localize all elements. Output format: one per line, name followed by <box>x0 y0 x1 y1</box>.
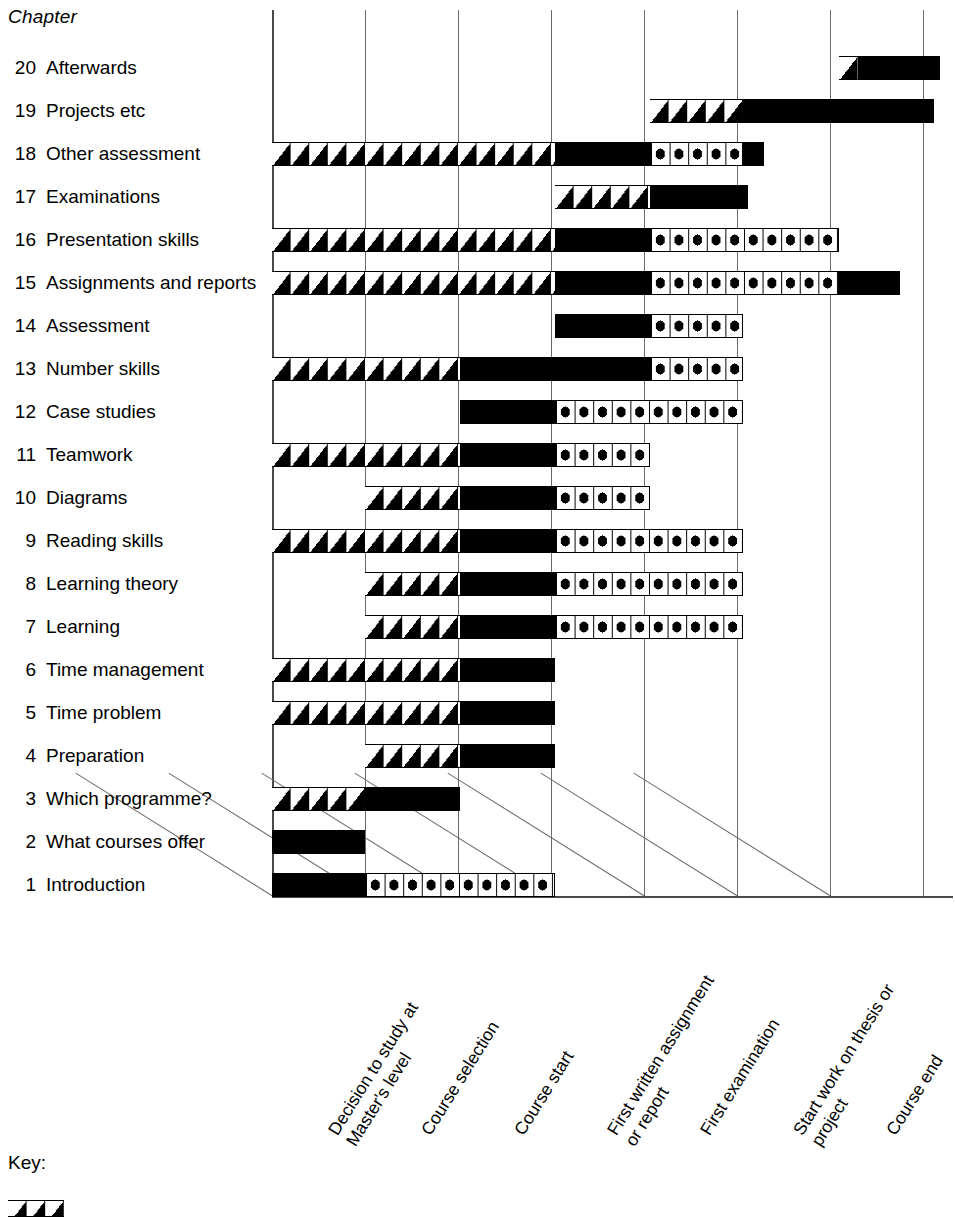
chapter-number: 17 <box>0 186 36 208</box>
chapter-title: Preparation <box>46 745 144 767</box>
chapter-title: Diagrams <box>46 487 127 509</box>
chapter-title: Assignments and reports <box>46 272 256 294</box>
gantt-segment-solid <box>460 744 555 768</box>
chapter-title: Time management <box>46 659 204 681</box>
chapter-number: 13 <box>0 358 36 380</box>
gantt-bar-row-3[interactable] <box>272 787 955 811</box>
gantt-segment-hatch <box>272 142 555 166</box>
gantt-segment-solid <box>460 486 555 510</box>
gantt-segment-hatch <box>365 744 460 768</box>
chapter-number: 8 <box>0 573 36 595</box>
chapter-number: 10 <box>0 487 36 509</box>
chapter-title: Afterwards <box>46 57 137 79</box>
gantt-bar-row-17[interactable] <box>272 185 955 209</box>
chapter-title: Presentation skills <box>46 229 199 251</box>
gantt-segment-solid <box>460 357 650 381</box>
gantt-segment-hatch <box>272 787 365 811</box>
gantt-segment-dot <box>555 443 650 467</box>
chapter-number: 3 <box>0 788 36 810</box>
chapter-row-label-3[interactable]: 3Which programme? <box>0 787 266 811</box>
gantt-bar-row-18[interactable] <box>272 142 955 166</box>
gantt-bar-row-14[interactable] <box>272 314 955 338</box>
gantt-segment-hatch <box>839 56 858 80</box>
chapter-row-label-17[interactable]: 17Examinations <box>0 185 266 209</box>
plot-area: Decision to study at Master's levelCours… <box>0 0 955 1217</box>
gantt-segment-hatch <box>272 529 460 553</box>
chapter-number: 16 <box>0 229 36 251</box>
gantt-bar-row-13[interactable] <box>272 357 955 381</box>
gantt-bar-row-9[interactable] <box>272 529 955 553</box>
chapter-row-label-7[interactable]: 7Learning <box>0 615 266 639</box>
chapter-row-label-19[interactable]: 19Projects etc <box>0 99 266 123</box>
chapter-row-label-16[interactable]: 16Presentation skills <box>0 228 266 252</box>
chapter-number: 7 <box>0 616 36 638</box>
gantt-segment-solid <box>460 443 555 467</box>
chapter-title: Assessment <box>46 315 149 337</box>
gantt-segment-hatch <box>650 99 743 123</box>
chapter-row-label-11[interactable]: 11Teamwork <box>0 443 266 467</box>
gantt-segment-solid <box>555 314 650 338</box>
chapter-number: 11 <box>0 444 36 466</box>
chapter-title: Reading skills <box>46 530 163 552</box>
chapter-title: Number skills <box>46 358 160 380</box>
chapter-number: 18 <box>0 143 36 165</box>
gantt-segment-hatch <box>555 185 650 209</box>
gantt-bar-row-15[interactable] <box>272 271 955 295</box>
chapter-row-label-18[interactable]: 18Other assessment <box>0 142 266 166</box>
gantt-segment-dot <box>365 873 555 897</box>
gantt-chart: Chapter Decision to study at Master's le… <box>0 0 955 1217</box>
gantt-bar-row-1[interactable] <box>272 873 955 897</box>
chapter-title: Examinations <box>46 186 160 208</box>
gantt-bar-row-8[interactable] <box>272 572 955 596</box>
chapter-title: Learning <box>46 616 120 638</box>
chapter-row-label-8[interactable]: 8Learning theory <box>0 572 266 596</box>
chapter-row-label-13[interactable]: 13Number skills <box>0 357 266 381</box>
chapter-row-label-15[interactable]: 15Assignments and reports <box>0 271 266 295</box>
gantt-segment-solid <box>555 142 650 166</box>
gantt-bar-row-19[interactable] <box>272 99 955 123</box>
chapter-number: 14 <box>0 315 36 337</box>
gantt-segment-solid <box>460 615 555 639</box>
chapter-title: Teamwork <box>46 444 133 466</box>
gantt-segment-dot <box>650 271 840 295</box>
chapter-row-label-14[interactable]: 14Assessment <box>0 314 266 338</box>
gantt-segment-solid <box>460 529 555 553</box>
gantt-bar-row-6[interactable] <box>272 658 955 682</box>
chapter-row-label-5[interactable]: 5Time problem <box>0 701 266 725</box>
gantt-bar-row-5[interactable] <box>272 701 955 725</box>
gantt-segment-solid <box>365 787 460 811</box>
chapter-number: 6 <box>0 659 36 681</box>
gantt-bar-row-2[interactable] <box>272 830 955 854</box>
gantt-segment-solid <box>460 658 555 682</box>
chapter-row-label-10[interactable]: 10Diagrams <box>0 486 266 510</box>
chapter-row-label-9[interactable]: 9Reading skills <box>0 529 266 553</box>
gantt-segment-solid <box>858 56 940 80</box>
chapter-row-label-6[interactable]: 6Time management <box>0 658 266 682</box>
gantt-segment-dot <box>555 572 743 596</box>
chapter-row-label-20[interactable]: 20Afterwards <box>0 56 266 80</box>
gantt-segment-solid <box>650 185 749 209</box>
chapter-row-label-2[interactable]: 2What courses offer <box>0 830 266 854</box>
gantt-segment-dot <box>555 486 650 510</box>
chapter-number: 9 <box>0 530 36 552</box>
gantt-bar-row-16[interactable] <box>272 228 955 252</box>
gantt-bar-row-4[interactable] <box>272 744 955 768</box>
gantt-segment-solid <box>272 830 365 854</box>
gantt-bar-row-11[interactable] <box>272 443 955 467</box>
chapter-row-label-12[interactable]: 12Case studies <box>0 400 266 424</box>
gantt-segment-dot <box>555 529 743 553</box>
gantt-bar-row-12[interactable] <box>272 400 955 424</box>
chapter-number: 4 <box>0 745 36 767</box>
gantt-segment-solid <box>272 873 365 897</box>
gantt-bar-row-20[interactable] <box>272 56 955 80</box>
chapter-row-label-4[interactable]: 4Preparation <box>0 744 266 768</box>
gantt-segment-hatch <box>272 357 460 381</box>
gantt-segment-solid <box>460 701 555 725</box>
gantt-segment-hatch <box>272 271 555 295</box>
gantt-bar-row-10[interactable] <box>272 486 955 510</box>
chapter-row-label-1[interactable]: 1Introduction <box>0 873 266 897</box>
gantt-segment-hatch <box>272 701 460 725</box>
chapter-title: Introduction <box>46 874 145 896</box>
gantt-segment-dot <box>650 314 743 338</box>
gantt-bar-row-7[interactable] <box>272 615 955 639</box>
